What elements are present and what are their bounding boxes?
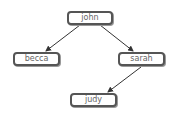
- edge-john-becca: [46, 25, 80, 51]
- node-judy[interactable]: judy: [70, 93, 117, 107]
- node-sarah[interactable]: sarah: [118, 52, 165, 66]
- node-becca[interactable]: becca: [13, 52, 60, 66]
- node-label: judy: [85, 95, 102, 104]
- node-label: john: [81, 13, 98, 22]
- node-label: sarah: [130, 54, 152, 63]
- node-label: becca: [25, 54, 49, 63]
- node-john[interactable]: john: [67, 11, 113, 25]
- edge-john-sarah: [100, 25, 133, 51]
- edge-sarah-judy: [108, 67, 141, 92]
